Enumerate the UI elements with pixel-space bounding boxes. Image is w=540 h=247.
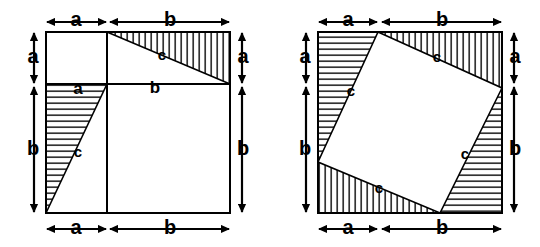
right-side-b-label: b [299, 137, 311, 159]
left-rightside-b-label: b [237, 137, 249, 159]
left-top-b-label: b [164, 8, 176, 30]
diagram-canvas: a b a b a b a b a b c c [0, 0, 540, 247]
right-square-group: a b a b a b a b c c c c [299, 8, 522, 238]
right-rightside-a-label: a [509, 45, 521, 67]
left-interior-a-label: a [73, 79, 83, 98]
right-top-a-label: a [342, 8, 354, 30]
left-interior-b-label: b [150, 78, 160, 97]
left-side-a-label: a [27, 45, 39, 67]
left-hypotenuse-c-upper-label: c [158, 46, 166, 63]
right-tilted-c-top-label: c [433, 48, 441, 65]
pythagorean-proof-figure: a b a b a b a b a b c c [0, 0, 540, 247]
right-tilted-c-bottom-label: c [375, 179, 383, 196]
right-tilted-c-right-label: c [461, 145, 469, 162]
left-bottom-b-label: b [164, 216, 176, 238]
right-bottom-b-label: b [436, 216, 448, 238]
left-a-square [46, 32, 107, 84]
right-side-a-label: a [299, 45, 311, 67]
right-rightside-b-label: b [509, 137, 521, 159]
left-square-group: a b a b a b a b a b c c [27, 8, 250, 238]
left-hypotenuse-c-lower-label: c [74, 143, 82, 160]
right-bottom-a-label: a [342, 216, 354, 238]
right-tilted-c-left-label: c [347, 82, 355, 99]
right-top-b-label: b [436, 8, 448, 30]
left-rightside-a-label: a [237, 45, 249, 67]
left-top-a-label: a [70, 8, 82, 30]
left-side-b-label: b [27, 137, 39, 159]
left-bottom-a-label: a [70, 216, 82, 238]
left-b-square [107, 84, 230, 213]
